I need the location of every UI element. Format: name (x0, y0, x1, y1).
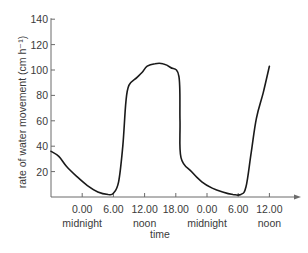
line-chart: 14012010080604020 0.00midnight6.0012.00n… (0, 0, 308, 253)
x-axis: 0.00midnight6.0012.00noon18.000.00midnig… (51, 193, 301, 229)
x-tick-label: 12.00 (131, 203, 157, 215)
x-tick-sublabel: midnight (187, 217, 227, 229)
x-tick-label: 18.00 (163, 203, 189, 215)
y-axis: 14012010080604020 (30, 13, 55, 197)
x-tick-label: 6.00 (228, 203, 249, 215)
y-tick-label: 140 (30, 13, 48, 25)
x-tick-label: 0.00 (197, 203, 218, 215)
y-tick-label: 100 (30, 64, 48, 76)
y-tick-label: 60 (36, 115, 48, 127)
y-tick-label: 80 (36, 89, 48, 101)
x-tick-label: 12.00 (256, 203, 282, 215)
y-tick-label: 120 (30, 39, 48, 51)
y-axis-title: rate of water movement (cm h⁻¹) (16, 36, 28, 188)
x-tick-sublabel: noon (258, 217, 282, 229)
data-line (51, 63, 269, 195)
x-tick-sublabel: midnight (62, 217, 102, 229)
x-axis-title: time (150, 228, 170, 240)
y-tick-label: 20 (36, 166, 48, 178)
x-axis-arrow-icon (294, 195, 301, 200)
y-tick-label: 40 (36, 140, 48, 152)
x-tick-label: 0.00 (72, 203, 93, 215)
x-tick-label: 6.00 (103, 203, 124, 215)
